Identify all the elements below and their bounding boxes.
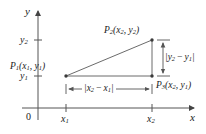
point-label-p1: P1(x1, y1)	[10, 62, 45, 72]
p2-paren-close: )	[136, 25, 139, 35]
vertical-dimension-label: |y2−y1|	[164, 53, 196, 63]
point-p2-marker	[150, 38, 153, 41]
x1-sub: 1	[65, 117, 68, 124]
y1-sub: 1	[24, 74, 27, 81]
x-tick-label-x1: x1	[61, 114, 69, 124]
y2-sub: 2	[24, 38, 27, 45]
y-axis-label: y	[25, 6, 30, 17]
horizontal-dimension-label: |x2−x1|	[82, 84, 116, 94]
vdim-operator: −	[175, 52, 184, 62]
p1-paren-close: )	[42, 61, 45, 71]
x-tick-label-x2: x2	[147, 114, 155, 124]
hdim-operator: −	[94, 83, 103, 93]
x-axis-label: x	[190, 112, 195, 123]
point-label-p2: P2(x2, y2)	[104, 26, 139, 36]
hdim-bar-close: |	[111, 83, 114, 93]
x2-sub: 2	[151, 117, 154, 124]
origin-label: 0	[26, 112, 31, 122]
segment-p1-p2-hypotenuse	[66, 40, 152, 76]
y-tick-label-y1: y1	[20, 71, 28, 81]
point-p1-marker	[64, 74, 67, 77]
distance-formula-figure: y x 0 y2 y1 x1 x2 P1(x1, y1) P2(x2, y2) …	[0, 0, 206, 134]
vdim-bar-close: |	[192, 52, 195, 62]
point-label-p3: P3(x2, y1)	[156, 81, 191, 91]
point-p3-marker	[150, 74, 153, 77]
p3-paren-close: )	[188, 80, 191, 90]
y-tick-label-y2: y2	[20, 35, 28, 45]
